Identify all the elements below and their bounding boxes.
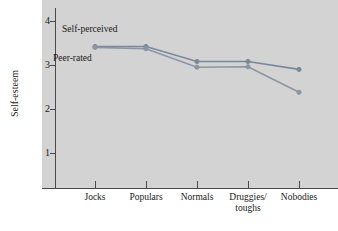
data-point <box>246 65 250 69</box>
data-point <box>297 67 301 71</box>
data-point <box>246 59 250 63</box>
data-point <box>195 65 199 69</box>
series-plot-area <box>0 0 338 231</box>
chart-figure: 4 3 2 1 Jocks Populars Normals Druggies/… <box>0 0 338 231</box>
data-point <box>195 59 199 63</box>
data-point <box>297 90 301 94</box>
data-point <box>144 47 148 51</box>
data-point <box>93 45 97 49</box>
series-line-peer-rated <box>95 47 299 92</box>
